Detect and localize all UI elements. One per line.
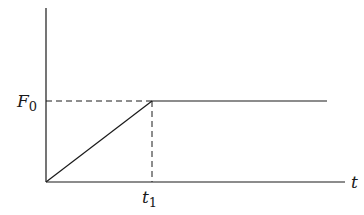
f0-label: F0 <box>16 91 37 114</box>
force-time-diagram: F0 t1 t <box>0 0 364 215</box>
x-axis-label: t <box>351 172 358 192</box>
t1-label-sub: 1 <box>149 195 157 210</box>
ramp-segment <box>46 101 152 182</box>
f0-label-sub: 0 <box>29 99 37 114</box>
t1-label: t1 <box>142 187 157 210</box>
